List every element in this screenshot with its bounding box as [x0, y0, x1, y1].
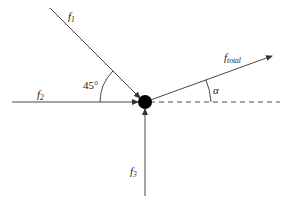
f2-label: f2	[37, 88, 44, 102]
f1-label: f1	[68, 10, 75, 24]
force-diagram: f1 f2 f3 ftotal 45° α	[0, 0, 284, 202]
angle-arc-45	[100, 71, 113, 102]
f3-label: f3	[130, 165, 137, 179]
alpha-label: α	[213, 84, 219, 96]
ftotal-vector	[145, 56, 272, 102]
particle-dot	[138, 95, 152, 109]
angle-arc-alpha	[206, 80, 211, 102]
ftotal-label: ftotal	[224, 51, 241, 65]
angle-45-label: 45°	[83, 79, 98, 91]
